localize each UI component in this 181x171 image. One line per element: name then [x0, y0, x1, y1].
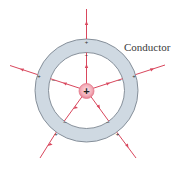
conductor-field-diagram: − − − − − + + + + + +	[0, 0, 181, 171]
arrow-icon	[150, 68, 154, 71]
svg-text:+: +	[85, 39, 89, 45]
svg-text:+: +	[116, 131, 120, 137]
svg-text:−: −	[85, 52, 89, 58]
svg-text:+: +	[37, 73, 41, 79]
arrow-icon	[85, 64, 88, 68]
arrow-icon	[20, 68, 24, 71]
svg-text:−: −	[106, 119, 110, 125]
svg-text:+: +	[132, 73, 136, 79]
svg-text:−: −	[118, 77, 122, 83]
conductor-label: Conductor	[124, 41, 170, 53]
arrow-icon	[63, 82, 67, 85]
svg-text:−: −	[63, 119, 67, 125]
svg-text:+: +	[54, 131, 58, 137]
point-charge: +	[79, 84, 94, 99]
arrow-icon	[106, 82, 110, 85]
arrow-icon	[85, 21, 88, 25]
plus-sign-icon: +	[83, 85, 89, 97]
svg-text:−: −	[52, 77, 56, 83]
